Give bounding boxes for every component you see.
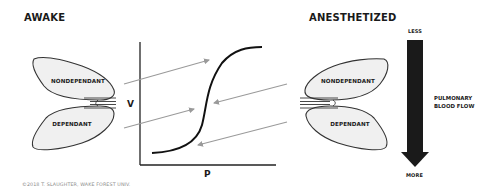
compliance-curve: [152, 47, 262, 153]
arrow-awake-dependant: [124, 109, 194, 128]
flow-label-line1: PULMONARY: [434, 94, 474, 102]
copyright-notice: ©2018 T. SLAUGHTER, WAKE FOREST UNIV.: [22, 182, 131, 187]
anesthetized-nondependant-label: NONDEPENDANT: [318, 78, 378, 84]
awake-lungs: [32, 58, 116, 150]
anesthetized-title: ANESTHETIZED: [309, 12, 397, 23]
anesthetized-lungs: [300, 59, 388, 150]
awake-nondependant-label: NONDEPENDANT: [48, 78, 108, 84]
awake-dependant-lobe: [32, 106, 114, 150]
arrow-awake-nondependant: [124, 60, 209, 84]
awake-dependant-label: DEPENDANT: [44, 121, 100, 127]
arrow-anesthetized-nondependant: [214, 84, 287, 103]
flow-more-label: MORE: [406, 172, 423, 178]
arrow-anesthetized-dependant: [198, 122, 287, 145]
awake-title: AWAKE: [24, 12, 65, 23]
flow-less-label: LESS: [408, 28, 422, 34]
anesthetized-dependant-lobe: [306, 106, 387, 150]
y-axis-label: V: [127, 99, 134, 109]
pulmonary-flow-arrow: [401, 40, 429, 167]
pulmonary-blood-flow-label: PULMONARY BLOOD FLOW: [434, 94, 474, 110]
flow-label-line2: BLOOD FLOW: [434, 102, 474, 110]
anesthetized-dependant-label: DEPENDANT: [322, 121, 378, 127]
x-axis-label: P: [204, 169, 211, 179]
